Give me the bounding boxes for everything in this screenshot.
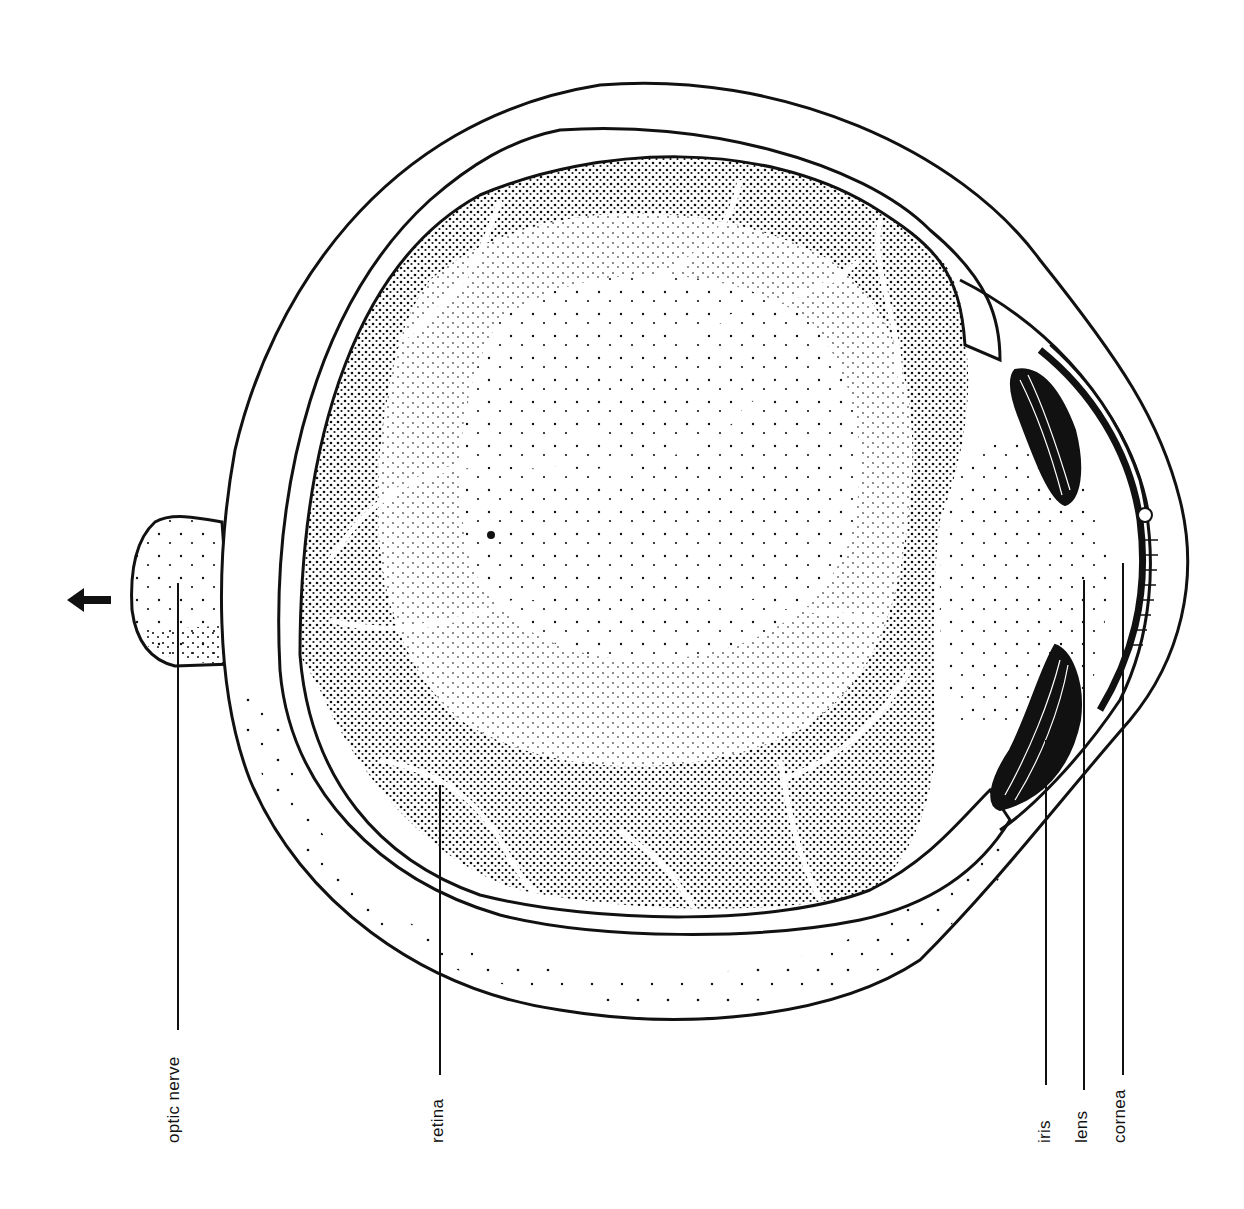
label-iris: iris (1035, 1120, 1055, 1143)
lens-shape (940, 440, 1108, 730)
label-lens: lens (1072, 1111, 1092, 1143)
eye-cross-section-diagram (0, 0, 1244, 1209)
label-retina: retina (428, 1099, 448, 1143)
optic-nerve-shape (132, 517, 232, 666)
direction-arrow-icon (67, 588, 111, 612)
label-optic-nerve: optic nerve (164, 1057, 184, 1143)
label-cornea: cornea (1110, 1089, 1130, 1143)
